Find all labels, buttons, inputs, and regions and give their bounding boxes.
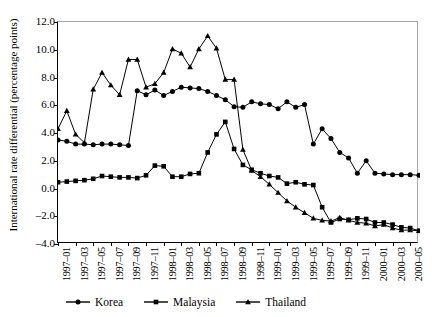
- x-axis-tick-mark: [76, 242, 77, 246]
- y-axis-tick-label: 6.0: [41, 98, 55, 110]
- chart-legend: KoreaMalaysiaThailand: [57, 292, 418, 312]
- legend-item-thailand[interactable]: Thailand: [235, 296, 306, 308]
- data-point-marker: [223, 97, 228, 102]
- x-axis-tick-label: 1998–03: [184, 247, 195, 281]
- x-axis-tick-label: 1999–01: [272, 247, 283, 281]
- y-axis-tick-mark: [54, 133, 58, 134]
- data-point-marker: [144, 92, 149, 97]
- x-axis-tick-mark: [111, 242, 112, 246]
- data-point-marker: [293, 180, 298, 185]
- legend-label: Thailand: [265, 296, 306, 308]
- x-axis-tick-label: 2000–03: [396, 247, 407, 281]
- data-point-marker: [178, 50, 184, 55]
- data-point-marker: [144, 173, 149, 178]
- y-axis-tick-mark: [54, 189, 58, 190]
- y-axis-tick-label: 10.0: [36, 43, 55, 55]
- x-axis-tick-mark: [234, 242, 235, 246]
- data-point-marker: [372, 171, 377, 176]
- data-point-marker: [179, 174, 184, 179]
- legend-item-korea[interactable]: Korea: [65, 296, 123, 308]
- x-axis-tick-mark: [146, 242, 147, 246]
- x-axis-tick-label: 1998–11: [255, 247, 266, 281]
- x-axis-tick-mark: [252, 242, 253, 246]
- x-axis-tick-mark: [269, 242, 270, 246]
- data-point-marker: [232, 147, 237, 152]
- x-axis-tick-label: 2000–01: [378, 247, 389, 281]
- legend-label: Malaysia: [173, 296, 215, 308]
- data-point-marker: [205, 33, 211, 38]
- data-point-marker: [64, 108, 70, 113]
- series-thailand: [57, 33, 420, 233]
- data-point-marker: [285, 181, 290, 186]
- legend-item-malaysia[interactable]: Malaysia: [143, 296, 215, 308]
- x-axis-tick-mark: [410, 242, 411, 246]
- data-point-marker: [90, 86, 96, 91]
- data-point-marker: [293, 105, 298, 110]
- data-point-marker: [328, 136, 333, 141]
- data-point-marker: [126, 175, 131, 180]
- data-point-marker: [57, 137, 61, 142]
- data-point-marker: [311, 142, 316, 147]
- x-axis-tick-label: 1998–01: [167, 247, 178, 281]
- data-point-marker: [214, 93, 219, 98]
- x-axis-tick-mark: [357, 242, 358, 246]
- data-point-marker: [82, 178, 87, 183]
- data-point-marker: [240, 105, 245, 110]
- data-point-marker: [355, 171, 360, 176]
- y-axis-tick-labels: 12.010.08.06.04.02.00.0–2.0–4.0: [26, 14, 57, 250]
- data-point-marker: [302, 102, 307, 107]
- x-axis-tick-label: 1997–07: [114, 247, 125, 281]
- data-point-marker: [258, 101, 263, 106]
- y-axis-tick-label: –2.0: [36, 209, 55, 221]
- data-point-marker: [109, 174, 114, 179]
- data-point-marker: [170, 174, 175, 179]
- data-point-marker: [135, 176, 140, 181]
- data-point-marker: [73, 179, 78, 184]
- circle-icon: [65, 296, 91, 308]
- data-point-marker: [205, 89, 210, 94]
- x-axis-tick-mark: [128, 242, 129, 246]
- y-axis-tick-mark: [54, 105, 58, 106]
- series-malaysia: [57, 120, 420, 234]
- data-point-marker: [276, 106, 281, 111]
- y-axis-tick-mark: [54, 161, 58, 162]
- x-axis-tick-label: 2000–05: [413, 247, 424, 281]
- data-point-marker: [196, 86, 201, 91]
- x-axis-tick-mark: [287, 242, 288, 246]
- y-axis-tick-label: 4.0: [41, 126, 55, 138]
- x-axis-tick-label: 1999–05: [308, 247, 319, 281]
- plot-area: [57, 21, 418, 243]
- data-point-marker: [91, 176, 96, 181]
- data-point-marker: [417, 173, 421, 178]
- data-point-marker: [205, 150, 210, 155]
- x-axis-tick-label: 1998–09: [237, 247, 248, 281]
- y-axis-tick-label: 12.0: [36, 15, 55, 27]
- x-axis-tick-mark: [58, 242, 59, 246]
- y-axis-tick-label: 0.0: [41, 182, 55, 194]
- x-axis-tick-label: 1999–11: [360, 247, 371, 281]
- data-point-marker: [73, 142, 78, 147]
- y-axis-tick-label: 8.0: [41, 71, 55, 83]
- data-point-marker: [126, 143, 131, 148]
- y-axis-title-text: International rate differential (percent…: [7, 19, 19, 232]
- data-point-marker: [223, 120, 228, 125]
- series-korea: [57, 85, 420, 178]
- series-line: [58, 36, 419, 231]
- data-point-marker: [188, 172, 193, 177]
- data-point-marker: [337, 150, 342, 155]
- data-point-marker: [310, 215, 316, 220]
- x-axis-tick-label: 1999–09: [343, 247, 354, 281]
- data-point-marker: [65, 179, 70, 184]
- data-point-marker: [117, 142, 122, 147]
- x-axis-tick-label: 1997–09: [131, 247, 142, 281]
- x-axis-tick-mark: [93, 242, 94, 246]
- data-point-marker: [161, 70, 167, 75]
- data-point-marker: [346, 155, 351, 160]
- data-point-marker: [135, 88, 140, 93]
- x-axis-tick-mark: [216, 242, 217, 246]
- data-point-marker: [293, 204, 299, 209]
- x-axis-tick-mark: [375, 242, 376, 246]
- data-point-marker: [57, 180, 60, 185]
- data-point-marker: [267, 102, 272, 107]
- data-point-marker: [302, 182, 307, 187]
